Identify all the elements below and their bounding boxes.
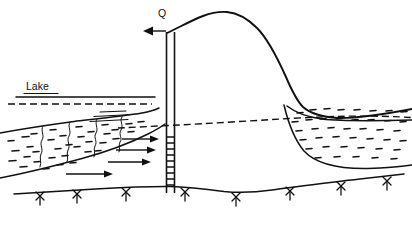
stipple-mark <box>43 169 49 170</box>
stipple-mark <box>128 132 134 133</box>
stipple-mark <box>104 134 110 135</box>
stipple-mark <box>353 157 359 158</box>
stipple-mark <box>391 159 397 160</box>
stipple-mark <box>12 151 19 152</box>
stipple-mark <box>50 130 56 131</box>
perched-mark-3 <box>100 111 126 112</box>
stipple-mark <box>62 156 68 157</box>
well-screen-interval <box>167 137 174 185</box>
lake-group: Lake <box>16 80 155 97</box>
stipple-mark <box>354 110 360 111</box>
bedrock-hatch-2 <box>73 190 81 203</box>
stipple-mark <box>292 122 298 123</box>
stipple-mark <box>297 113 303 114</box>
stipple-mark <box>344 129 350 130</box>
stipple-mark <box>306 120 312 121</box>
stipple-mark <box>300 140 306 141</box>
aquifer-left-bottom-boundary <box>0 124 165 178</box>
stipple-mark <box>394 150 400 151</box>
ground-surface-line <box>167 12 412 118</box>
flow-arrow-head <box>142 159 151 166</box>
flow-arrow-3 <box>116 147 156 154</box>
stipple-mark <box>372 158 378 159</box>
stipple-mark <box>312 129 318 130</box>
stipple-mark <box>113 139 119 140</box>
lake-label: Lake <box>26 80 49 92</box>
flow-arrow-head <box>147 147 156 154</box>
cross-section-svg: Lake <box>0 0 412 227</box>
stipple-mark <box>358 148 364 149</box>
bedrock-hatch-4 <box>181 188 189 201</box>
hydrogeology-cross-section-diagram: Lake <box>0 0 412 227</box>
bedrock-hatch-7 <box>337 182 345 195</box>
stipple-mark <box>20 167 27 168</box>
discharge-group: Q <box>143 7 166 36</box>
aquifer-right-group <box>284 105 412 169</box>
stipple-mark <box>310 110 316 111</box>
stipple-mark <box>138 122 144 123</box>
flow-arrow-4 <box>122 136 159 143</box>
stipple-mark <box>324 109 330 110</box>
flow-arrow-2 <box>108 159 151 166</box>
discharge-label: Q <box>158 7 166 19</box>
stipple-mark <box>306 149 312 150</box>
stipple-mark <box>48 140 54 141</box>
stipple-mark <box>85 152 91 153</box>
stipple-mark <box>86 142 92 143</box>
stipple-mark <box>350 138 356 139</box>
stipple-mark <box>386 111 392 112</box>
flow-arrow-head <box>150 136 159 143</box>
stipple-mark <box>328 128 334 129</box>
stipple-mark <box>22 137 29 138</box>
stipple-mark <box>384 140 390 141</box>
bedrock-group <box>14 174 404 206</box>
stipple-mark <box>394 131 400 132</box>
stipple-mark <box>385 121 391 122</box>
stipple-mark <box>74 147 80 148</box>
bedrock-hatch-5 <box>232 193 240 206</box>
stipple-mark <box>102 125 108 126</box>
groundwater-flow-arrows <box>66 136 159 178</box>
stipple-mark <box>352 120 358 121</box>
stipple-mark <box>368 120 374 121</box>
stipple-mark <box>333 137 339 138</box>
stipple-mark <box>377 130 383 131</box>
stipple-mark <box>78 137 84 138</box>
stipple-mark <box>8 141 14 142</box>
stipple-mark <box>400 122 406 123</box>
stipple-mark <box>320 119 326 120</box>
aquifer-left-group <box>0 108 165 178</box>
stipple-mark <box>60 136 66 137</box>
stipple-mark <box>400 141 406 142</box>
stipple-mark <box>9 161 16 162</box>
stipple-mark <box>315 158 321 159</box>
stipple-mark <box>100 143 106 144</box>
stipple-mark <box>296 131 302 132</box>
stipple-mark <box>76 127 82 128</box>
flow-arrow-1 <box>66 171 113 178</box>
aquifer-left-top-boundary <box>0 108 159 133</box>
stipple-mark <box>126 124 132 125</box>
stipple-mark <box>367 139 373 140</box>
stipple-mark <box>34 162 40 163</box>
flow-arrow-head <box>104 171 113 178</box>
pumping-well-group[interactable] <box>167 32 175 193</box>
stipple-mark <box>57 165 63 166</box>
stipple-mark <box>401 112 407 113</box>
stipple-mark <box>49 158 55 159</box>
stipple-mark <box>360 129 366 130</box>
stipple-mark <box>376 149 382 150</box>
stipple-mark <box>55 149 61 150</box>
stipple-mark <box>316 138 322 139</box>
stipple-mark <box>88 132 94 133</box>
stipple-mark <box>33 152 39 153</box>
stipple-mark <box>334 157 340 158</box>
ground-surface-group <box>167 12 412 118</box>
bedrock-hatch-1 <box>36 192 44 205</box>
stipple-mark <box>31 134 37 135</box>
stipple-mark <box>95 151 101 152</box>
stipple-mark <box>338 110 344 111</box>
bedrock-hatch-6 <box>286 187 294 200</box>
water-table-group <box>8 104 412 128</box>
stipple-mark <box>336 119 342 120</box>
